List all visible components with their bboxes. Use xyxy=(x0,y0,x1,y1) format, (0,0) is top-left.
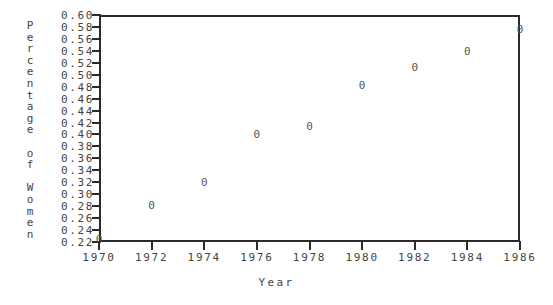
y-axis-tick-label: 0.26 xyxy=(61,213,94,224)
x-axis-tick xyxy=(361,241,363,250)
x-axis-tick-label: 1972 xyxy=(135,252,168,264)
y-axis-tick-label: 0.56 xyxy=(61,33,94,44)
x-axis-tick-label: 1982 xyxy=(398,252,431,264)
y-axis-tick-label: 0.52 xyxy=(61,57,94,68)
x-axis-tick-label: 1976 xyxy=(240,252,273,264)
data-point: 0 xyxy=(517,24,524,35)
data-point: 0 xyxy=(306,120,313,131)
x-axis-tick-label: 1984 xyxy=(451,252,484,264)
y-axis-tick-label: 0.36 xyxy=(61,153,94,164)
y-axis-title-char: a xyxy=(22,101,38,113)
x-axis-tick xyxy=(256,241,258,250)
data-points-layer: 000000000 xyxy=(99,15,520,242)
y-axis-tick-label: 0.58 xyxy=(61,21,94,32)
y-axis-tick-label: 0.22 xyxy=(61,237,94,248)
y-axis-tick-label: 0.54 xyxy=(61,45,94,56)
y-axis-title: Percentage of Women xyxy=(22,20,38,240)
y-axis-tick-label: 0.24 xyxy=(61,225,94,236)
x-axis-tick-label: 1974 xyxy=(188,252,221,264)
data-point: 0 xyxy=(254,128,261,139)
y-axis-tick-label: 0.48 xyxy=(61,81,94,92)
x-axis-tick-label: 1980 xyxy=(345,252,378,264)
x-axis-tick-label: 1978 xyxy=(293,252,326,264)
x-axis-tick xyxy=(151,241,153,250)
x-axis-title: Year xyxy=(0,276,553,289)
y-axis-tick-label: 0.30 xyxy=(61,189,94,200)
x-axis-tick xyxy=(203,241,205,250)
data-point: 0 xyxy=(359,80,366,91)
data-point: 0 xyxy=(148,199,155,210)
x-axis-tick xyxy=(519,241,521,250)
y-axis-tick-label: 0.34 xyxy=(61,165,94,176)
y-axis-title-char: P xyxy=(22,20,38,32)
y-axis-tick-label: 0.60 xyxy=(61,10,94,21)
y-axis-tick-label: 0.42 xyxy=(61,117,94,128)
y-axis-tick-label: 0.40 xyxy=(61,129,94,140)
data-point: 0 xyxy=(411,61,418,72)
y-axis-tick-label: 0.50 xyxy=(61,69,94,80)
y-axis-tick-label: 0.32 xyxy=(61,177,94,188)
x-axis-tick xyxy=(414,241,416,250)
y-axis-title-char: o xyxy=(22,194,38,206)
x-axis-tick xyxy=(309,241,311,250)
x-axis-tick-label: 1970 xyxy=(82,252,115,264)
data-point: 0 xyxy=(201,176,208,187)
y-axis-title-char: e xyxy=(22,217,38,229)
data-point: 0 xyxy=(464,45,471,56)
y-axis-title-char: f xyxy=(22,159,38,171)
x-axis-tick-label: 1986 xyxy=(503,252,536,264)
y-axis-title-char: n xyxy=(22,78,38,90)
x-axis-tick xyxy=(466,241,468,250)
y-axis-tick-label: 0.28 xyxy=(61,201,94,212)
y-axis-tick-label: 0.38 xyxy=(61,141,94,152)
x-axis-tick xyxy=(98,241,100,250)
y-axis-tick-label: 0.44 xyxy=(61,105,94,116)
y-axis-title-char: n xyxy=(22,229,38,241)
y-axis-tick-label: 0.46 xyxy=(61,93,94,104)
scatter-chart: Percentage of Women 0.600.580.560.540.52… xyxy=(0,0,553,305)
y-axis-title-char xyxy=(22,136,38,148)
